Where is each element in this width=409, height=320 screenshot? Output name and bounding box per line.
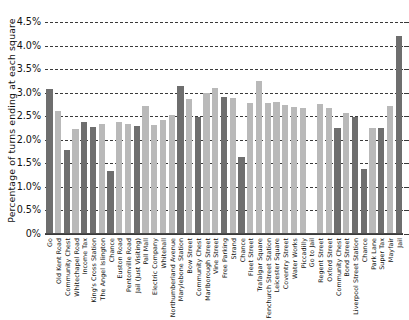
- bar[interactable]: [46, 89, 52, 234]
- x-axis-tick-label: Bond Street: [343, 238, 350, 276]
- bar-slot[interactable]: [263, 22, 272, 234]
- bar-slot[interactable]: [281, 22, 290, 234]
- bar[interactable]: [125, 124, 131, 234]
- bar-slot[interactable]: [193, 22, 202, 234]
- bar-slot[interactable]: [325, 22, 334, 234]
- x-axis-tick-label: Park Lane: [369, 238, 376, 270]
- bar-slot[interactable]: [307, 22, 316, 234]
- x-axis-label-slot: The Angel Islington: [97, 236, 106, 320]
- bar-slot[interactable]: [272, 22, 281, 234]
- bar-slot[interactable]: [368, 22, 377, 234]
- bar[interactable]: [369, 128, 375, 234]
- bar[interactable]: [352, 117, 358, 234]
- bar-slot[interactable]: [255, 22, 264, 234]
- bar[interactable]: [212, 88, 218, 235]
- bar-series: [45, 22, 403, 234]
- x-axis-tick-label: Fleet Street: [247, 238, 254, 276]
- bar[interactable]: [81, 122, 87, 234]
- bar[interactable]: [230, 98, 236, 234]
- bar[interactable]: [361, 169, 367, 234]
- bar[interactable]: [387, 106, 393, 234]
- bar[interactable]: [55, 111, 61, 234]
- bar[interactable]: [99, 124, 105, 234]
- bar-slot[interactable]: [71, 22, 80, 234]
- x-axis-tick-label: Chance: [360, 238, 367, 262]
- bar-slot[interactable]: [132, 22, 141, 234]
- x-axis-label-slot: Fenchurch Street Station: [263, 236, 272, 320]
- bar[interactable]: [142, 106, 148, 234]
- x-axis-tick-label: Whitechapel Road: [72, 238, 79, 297]
- bar-slot[interactable]: [298, 22, 307, 234]
- bar[interactable]: [160, 120, 166, 234]
- bar-slot[interactable]: [141, 22, 150, 234]
- bar[interactable]: [203, 93, 209, 234]
- bar[interactable]: [64, 150, 70, 234]
- bar-slot[interactable]: [386, 22, 395, 234]
- bar-slot[interactable]: [211, 22, 220, 234]
- bar[interactable]: [343, 113, 349, 234]
- bar[interactable]: [378, 128, 384, 234]
- x-axis-label-slot: Community Chest: [193, 236, 202, 320]
- bar[interactable]: [256, 81, 262, 234]
- bar-slot[interactable]: [167, 22, 176, 234]
- bar[interactable]: [195, 117, 201, 234]
- bar[interactable]: [221, 97, 227, 234]
- bar-slot[interactable]: [97, 22, 106, 234]
- bar[interactable]: [300, 108, 306, 234]
- bar-slot[interactable]: [45, 22, 54, 234]
- bar-slot[interactable]: [333, 22, 342, 234]
- bar-slot[interactable]: [377, 22, 386, 234]
- bar-slot[interactable]: [290, 22, 299, 234]
- bar[interactable]: [317, 104, 323, 234]
- y-axis-tick-mark: [404, 163, 409, 164]
- bar-slot[interactable]: [316, 22, 325, 234]
- bar[interactable]: [72, 129, 78, 234]
- bar-slot[interactable]: [106, 22, 115, 234]
- x-axis-label-slot: Leicester Square: [272, 236, 281, 320]
- bar-slot[interactable]: [150, 22, 159, 234]
- bar[interactable]: [273, 102, 279, 234]
- bar[interactable]: [247, 103, 253, 234]
- bar-slot[interactable]: [237, 22, 246, 234]
- bar[interactable]: [282, 105, 288, 234]
- bar[interactable]: [134, 126, 140, 234]
- gridline: 0%: [45, 234, 403, 235]
- bar-slot[interactable]: [124, 22, 133, 234]
- bar-slot[interactable]: [228, 22, 237, 234]
- bar[interactable]: [151, 125, 157, 234]
- bar-slot[interactable]: [351, 22, 360, 234]
- bar[interactable]: [177, 86, 183, 234]
- bar[interactable]: [334, 128, 340, 234]
- bar[interactable]: [186, 99, 192, 234]
- bar-slot[interactable]: [115, 22, 124, 234]
- x-axis-label-slot: Oxford Street: [325, 236, 334, 320]
- bar-slot[interactable]: [246, 22, 255, 234]
- bar-slot[interactable]: [342, 22, 351, 234]
- bar-slot[interactable]: [89, 22, 98, 234]
- x-axis-label-slot: Coventry Street: [281, 236, 290, 320]
- bar[interactable]: [116, 122, 122, 234]
- bar-slot[interactable]: [54, 22, 63, 234]
- bar-slot[interactable]: [176, 22, 185, 234]
- y-axis-tick-label: 0%: [26, 228, 41, 239]
- bar-slot[interactable]: [202, 22, 211, 234]
- bar[interactable]: [90, 127, 96, 234]
- x-axis-label-slot: Jail: [394, 236, 403, 320]
- bar[interactable]: [326, 108, 332, 234]
- bar-slot[interactable]: [394, 22, 403, 234]
- bar[interactable]: [238, 157, 244, 234]
- bar[interactable]: [291, 107, 297, 234]
- bar[interactable]: [265, 103, 271, 234]
- bar[interactable]: [169, 115, 175, 234]
- x-axis-label-slot: Strand: [228, 236, 237, 320]
- bar[interactable]: [396, 36, 402, 234]
- bar-slot[interactable]: [62, 22, 71, 234]
- bar-slot[interactable]: [185, 22, 194, 234]
- bar-slot[interactable]: [159, 22, 168, 234]
- bar-slot[interactable]: [359, 22, 368, 234]
- bar-slot[interactable]: [80, 22, 89, 234]
- x-axis-label-slot: Free Parking: [220, 236, 229, 320]
- bar-slot[interactable]: [220, 22, 229, 234]
- bar[interactable]: [107, 171, 113, 234]
- y-axis-tick-mark: [404, 234, 409, 235]
